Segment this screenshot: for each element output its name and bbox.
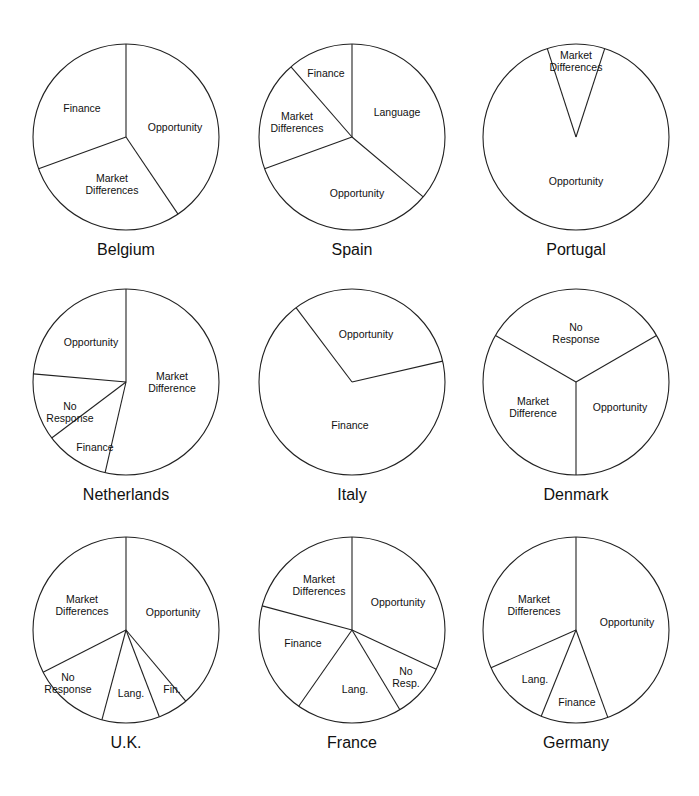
slice-label: Finance [558,696,595,708]
pie-title: Germany [476,734,676,752]
slice-label: Market Differences [508,593,561,617]
slice-label: Opportunity [600,616,654,628]
pie-germany [0,0,699,796]
slice-label: Lang. [522,673,548,685]
